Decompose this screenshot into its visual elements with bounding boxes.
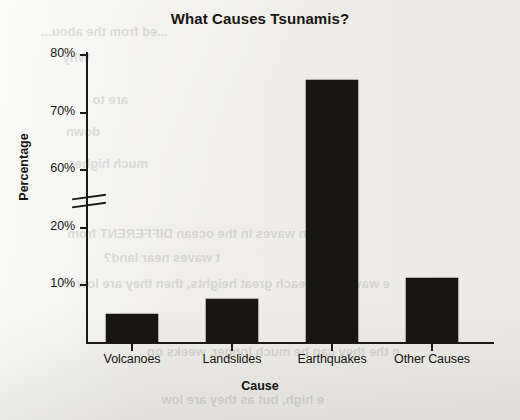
y-tick-0 bbox=[80, 54, 87, 56]
x-tick-1 bbox=[231, 344, 233, 351]
bar-earthquakes bbox=[306, 80, 358, 342]
y-tick-3 bbox=[80, 227, 87, 229]
axis-break-lower-slash bbox=[72, 202, 106, 209]
y-tick-label-1: 70% bbox=[15, 104, 75, 118]
bar-volcanoes bbox=[106, 314, 158, 343]
x-tick-2 bbox=[331, 344, 333, 351]
category-label-other-causes: Other Causes bbox=[382, 352, 482, 366]
category-label-volcanoes: Volcanoes bbox=[82, 352, 182, 366]
bar-other-causes bbox=[406, 278, 458, 342]
y-tick-1 bbox=[80, 112, 87, 114]
x-axis-title: Cause bbox=[0, 379, 520, 393]
category-label-earthquakes: Earthquakes bbox=[282, 352, 382, 366]
x-tick-3 bbox=[431, 344, 433, 351]
y-tick-4 bbox=[80, 284, 87, 286]
y-axis-title: Percentage bbox=[17, 122, 31, 212]
y-tick-label-0: 80% bbox=[15, 46, 75, 60]
x-tick-0 bbox=[131, 344, 133, 351]
category-label-landslides: Landslides bbox=[182, 352, 282, 366]
y-tick-2 bbox=[80, 169, 87, 171]
chart-title: What Causes Tsunamis? bbox=[0, 10, 520, 27]
y-tick-label-4: 10% bbox=[15, 276, 75, 290]
bar-chart: What Causes Tsunamis? 80%70%60%20%10% Vo… bbox=[0, 0, 520, 420]
y-tick-label-3: 20% bbox=[15, 219, 75, 233]
axis-break-upper-slash bbox=[72, 194, 106, 201]
bar-landslides bbox=[206, 299, 258, 342]
